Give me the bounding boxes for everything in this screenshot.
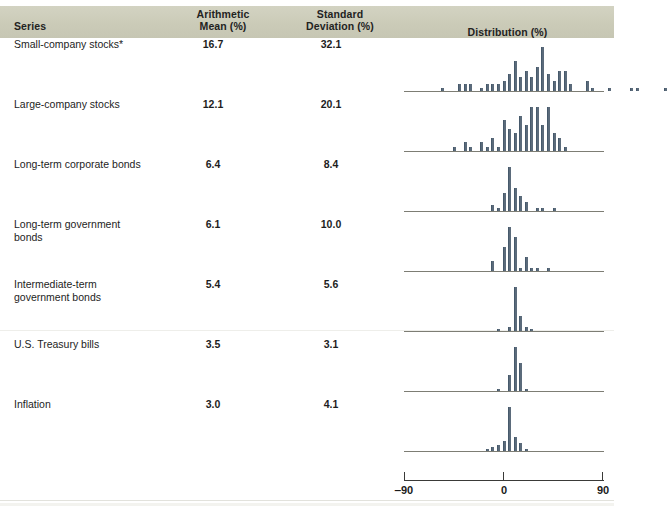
row-arithmetic-mean: 3.0 [183, 398, 243, 410]
row-arithmetic-mean: 12.1 [183, 98, 243, 110]
histogram-bar [525, 71, 528, 91]
row-standard-deviation: 4.1 [296, 398, 366, 410]
row-distribution-histogram [404, 340, 604, 392]
row-standard-deviation: 3.1 [296, 338, 366, 350]
histogram-bar [491, 205, 494, 211]
histogram-bar [508, 407, 511, 451]
histogram-bar [497, 84, 500, 91]
histogram-baseline [404, 91, 604, 92]
table-row: Large-company stocks12.120.1 [0, 98, 614, 158]
column-header-arithmetic-mean-line2: Mean (%) [168, 21, 278, 33]
histogram-baseline [404, 211, 604, 212]
histogram-bar [530, 107, 533, 151]
histogram-bar [525, 202, 528, 211]
row-distribution-histogram [404, 160, 604, 212]
histogram-bar [491, 261, 494, 271]
histogram-bar [486, 449, 489, 451]
table-body: Small-company stocks*16.732.1Large-compa… [0, 38, 614, 470]
histogram-bar [441, 88, 444, 91]
histogram-bar [525, 449, 528, 451]
axis-tick-max [602, 472, 603, 481]
table-row: Inflation3.04.1 [0, 398, 614, 458]
row-standard-deviation: 5.6 [296, 278, 366, 290]
histogram-bar [469, 147, 472, 151]
axis-tick-min [404, 472, 405, 481]
histogram-bar [664, 88, 667, 91]
row-series-label-line: Intermediate-term [14, 278, 164, 291]
table-row: Intermediate-termgovernment bonds5.45.6 [0, 278, 614, 338]
histogram-bar [503, 441, 506, 451]
histogram-bar [547, 107, 550, 151]
histogram-bar [503, 193, 506, 211]
row-standard-deviation: 10.0 [296, 218, 366, 230]
histogram-bar [497, 389, 500, 391]
histogram-baseline [404, 151, 604, 152]
row-distribution-histogram [404, 280, 604, 332]
histogram-bar [519, 316, 522, 331]
histogram-bar [491, 138, 494, 151]
row-series-label: Large-company stocks [14, 98, 164, 111]
histogram-bar [519, 77, 522, 91]
row-distribution-histogram [404, 100, 604, 152]
histogram-bar [514, 437, 517, 451]
histogram-bar [536, 208, 539, 211]
histogram-bar [508, 227, 511, 271]
row-arithmetic-mean: 3.5 [183, 338, 243, 350]
table-row: Long-term corporate bonds6.48.4 [0, 158, 614, 218]
bottom-divider-shadow [0, 503, 614, 506]
histogram-bar [453, 147, 456, 151]
row-distribution-histogram [404, 40, 604, 92]
histogram-bar [525, 389, 528, 391]
histogram-bar [514, 347, 517, 391]
column-header-distribution: Distribution (%) [405, 27, 610, 39]
axis-tick-zero [503, 472, 504, 481]
histogram-bar [508, 74, 511, 91]
histogram-bar [553, 208, 556, 211]
column-header-series: Series [14, 21, 46, 33]
histogram-bar [525, 257, 528, 271]
row-series-label-line: government bonds [14, 291, 164, 304]
histogram-baseline [404, 271, 604, 272]
table-row: Small-company stocks*16.732.1 [0, 38, 614, 98]
histogram-bar [569, 84, 572, 91]
row-series-label-line: bonds [14, 231, 164, 244]
histogram-bar [553, 133, 556, 151]
row-series-label-line: Long-term corporate bonds [14, 158, 164, 171]
histogram-bar [591, 88, 594, 91]
histogram-bar [519, 268, 522, 271]
histogram-bar [525, 125, 528, 151]
bottom-divider [0, 500, 614, 501]
column-header-standard-deviation-line1: Standard [280, 9, 400, 21]
row-series-label-line: Small-company stocks* [14, 38, 164, 51]
histogram-bar [491, 447, 494, 451]
row-standard-deviation: 32.1 [296, 38, 366, 50]
histogram-bar [536, 107, 539, 151]
histogram-bar [519, 196, 522, 211]
histogram-bar [547, 268, 550, 271]
histogram-bar [480, 88, 483, 91]
column-header-standard-deviation: Standard Deviation (%) [280, 9, 400, 32]
histogram-bar [469, 84, 472, 91]
histogram-bar [530, 329, 533, 331]
histogram-bar [519, 363, 522, 391]
histogram-bar [636, 88, 639, 91]
histogram-bar [503, 120, 506, 151]
histogram-bar [497, 445, 500, 451]
axis-label-max: 90 [581, 484, 625, 496]
histogram-bar [497, 329, 500, 331]
histogram-bar [480, 142, 483, 151]
histogram-bar [586, 81, 589, 91]
histogram-bar [553, 81, 556, 91]
row-arithmetic-mean: 5.4 [183, 278, 243, 290]
row-arithmetic-mean: 6.1 [183, 218, 243, 230]
row-series-label-line: Long-term government [14, 218, 164, 231]
row-series-label: Intermediate-termgovernment bonds [14, 278, 164, 303]
histogram-bar [608, 88, 611, 91]
histogram-bar [541, 47, 544, 91]
histogram-baseline [404, 331, 604, 332]
histogram-bar [486, 84, 489, 91]
table-row: Long-term governmentbonds6.110.0 [0, 218, 614, 278]
row-standard-deviation: 20.1 [296, 98, 366, 110]
row-series-label: Long-term governmentbonds [14, 218, 164, 243]
row-distribution-histogram [404, 400, 604, 452]
